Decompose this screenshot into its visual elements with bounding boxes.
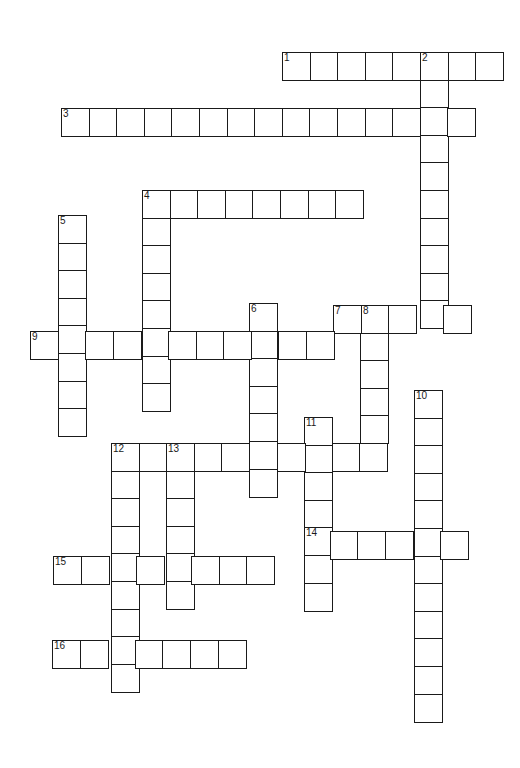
crossword-cell[interactable] <box>414 638 443 667</box>
crossword-cell[interactable] <box>58 270 87 299</box>
crossword-cell[interactable] <box>360 415 389 444</box>
crossword-cell[interactable] <box>111 498 140 527</box>
crossword-cell[interactable] <box>420 135 449 164</box>
crossword-cell[interactable] <box>448 52 477 81</box>
crossword-cell[interactable]: 8 <box>361 305 390 334</box>
crossword-cell[interactable] <box>277 443 306 472</box>
crossword-cell[interactable] <box>337 108 366 137</box>
crossword-cell[interactable] <box>420 190 449 219</box>
crossword-cell[interactable] <box>113 331 142 360</box>
crossword-cell[interactable] <box>58 381 87 410</box>
crossword-cell[interactable] <box>385 531 414 560</box>
crossword-cell[interactable] <box>304 472 333 501</box>
crossword-cell[interactable]: 16 <box>52 640 81 669</box>
crossword-cell[interactable] <box>414 583 443 612</box>
crossword-cell[interactable] <box>225 190 254 219</box>
crossword-cell[interactable]: 15 <box>53 556 82 585</box>
crossword-cell[interactable] <box>58 243 87 272</box>
crossword-cell[interactable] <box>365 52 394 81</box>
crossword-cell[interactable]: 9 <box>30 331 59 360</box>
crossword-cell[interactable] <box>304 583 333 612</box>
crossword-cell[interactable]: 5 <box>58 215 87 244</box>
crossword-cell[interactable] <box>475 52 504 81</box>
crossword-cell[interactable] <box>249 413 278 442</box>
crossword-cell[interactable] <box>360 388 389 417</box>
crossword-cell[interactable] <box>360 360 389 389</box>
crossword-cell[interactable] <box>142 383 171 412</box>
crossword-cell[interactable] <box>308 190 337 219</box>
crossword-cell[interactable] <box>414 418 443 447</box>
crossword-cell[interactable] <box>360 333 389 362</box>
crossword-cell[interactable] <box>111 526 140 555</box>
crossword-cell[interactable] <box>414 666 443 695</box>
crossword-cell[interactable] <box>414 445 443 474</box>
crossword-cell[interactable] <box>249 386 278 415</box>
crossword-cell[interactable] <box>249 469 278 498</box>
crossword-cell[interactable] <box>420 218 449 247</box>
crossword-cell[interactable] <box>142 245 171 274</box>
crossword-cell[interactable] <box>359 443 388 472</box>
crossword-cell[interactable] <box>190 640 219 669</box>
crossword-cell[interactable]: 2 <box>420 52 449 81</box>
crossword-cell[interactable] <box>304 555 333 584</box>
crossword-cell[interactable]: 14 <box>304 527 333 556</box>
crossword-cell[interactable] <box>414 528 443 557</box>
crossword-cell[interactable] <box>420 107 449 136</box>
crossword-cell[interactable] <box>278 331 307 360</box>
crossword-cell[interactable] <box>58 353 87 382</box>
crossword-cell[interactable] <box>254 108 283 137</box>
crossword-cell[interactable] <box>420 80 449 109</box>
crossword-cell[interactable] <box>249 331 278 360</box>
crossword-cell[interactable] <box>116 108 145 137</box>
crossword-cell[interactable] <box>306 331 335 360</box>
crossword-cell[interactable]: 12 <box>111 443 140 472</box>
crossword-cell[interactable] <box>162 640 191 669</box>
crossword-cell[interactable] <box>335 190 364 219</box>
crossword-cell[interactable] <box>191 556 220 585</box>
crossword-cell[interactable] <box>89 108 118 137</box>
crossword-cell[interactable] <box>332 443 361 472</box>
crossword-cell[interactable] <box>135 640 164 669</box>
crossword-cell[interactable] <box>58 408 87 437</box>
crossword-cell[interactable] <box>168 331 197 360</box>
crossword-cell[interactable] <box>144 108 173 137</box>
crossword-cell[interactable] <box>85 331 114 360</box>
crossword-cell[interactable] <box>304 500 333 529</box>
crossword-cell[interactable] <box>365 108 394 137</box>
crossword-cell[interactable] <box>280 190 309 219</box>
crossword-cell[interactable] <box>309 108 338 137</box>
crossword-cell[interactable] <box>142 273 171 302</box>
crossword-cell[interactable]: 13 <box>166 443 195 472</box>
crossword-cell[interactable] <box>81 556 110 585</box>
crossword-cell[interactable] <box>414 473 443 502</box>
crossword-cell[interactable] <box>447 108 476 137</box>
crossword-cell[interactable] <box>199 108 228 137</box>
crossword-cell[interactable] <box>221 443 250 472</box>
crossword-cell[interactable] <box>388 305 417 334</box>
crossword-cell[interactable] <box>170 190 199 219</box>
crossword-cell[interactable]: 7 <box>333 305 362 334</box>
crossword-cell[interactable] <box>252 190 281 219</box>
crossword-cell[interactable] <box>80 640 109 669</box>
crossword-cell[interactable]: 6 <box>249 303 278 332</box>
crossword-cell[interactable] <box>166 471 195 500</box>
crossword-cell[interactable] <box>111 471 140 500</box>
crossword-cell[interactable] <box>171 108 200 137</box>
crossword-cell[interactable] <box>218 640 247 669</box>
crossword-cell[interactable] <box>142 356 171 385</box>
crossword-cell[interactable] <box>337 52 366 81</box>
crossword-cell[interactable] <box>142 300 171 329</box>
crossword-cell[interactable] <box>414 694 443 723</box>
crossword-cell[interactable] <box>166 526 195 555</box>
crossword-cell[interactable] <box>414 611 443 640</box>
crossword-cell[interactable] <box>246 556 275 585</box>
crossword-cell[interactable] <box>196 331 225 360</box>
crossword-cell[interactable] <box>357 531 386 560</box>
crossword-cell[interactable] <box>392 108 421 137</box>
crossword-cell[interactable]: 3 <box>61 108 90 137</box>
crossword-cell[interactable] <box>58 298 87 327</box>
crossword-cell[interactable] <box>392 52 421 81</box>
crossword-cell[interactable] <box>111 609 140 638</box>
crossword-cell[interactable] <box>310 52 339 81</box>
crossword-cell[interactable] <box>304 445 333 474</box>
